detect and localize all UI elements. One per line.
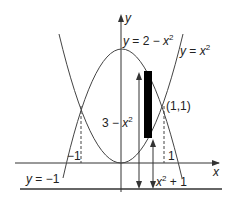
arrow-up-icon [150,139,156,147]
label-rest: = [186,44,200,58]
tick-neg-1: −1 [67,150,81,162]
label-prefix: 3 − [102,116,122,130]
lower-curve-label: y = x2 [180,44,210,57]
label-exp: 2 [128,115,132,124]
y-axis-arrow-icon [118,14,124,22]
lower-length-label: x2 + 1 [156,175,187,188]
arrow-up-icon [136,72,142,80]
tick-pos-1: 1 [168,150,175,162]
label-suffix: + 1 [166,175,186,189]
y-axis-label: y [125,12,131,24]
label-exp: 2 [169,33,173,42]
intersection-label: (1,1) [166,100,191,112]
upper-curve-label: y = 2 − x2 [123,34,173,47]
representative-rectangle [144,71,152,138]
x-axis-label: x [213,166,219,178]
label-rest: = −1 [32,172,59,186]
upper-length-label: 3 − x2 [102,116,133,129]
label-exp: 2 [206,43,210,52]
label-rest: = 2 − [129,34,163,48]
line-y-minus-1-label: y = −1 [26,173,59,185]
arrow-down-icon [136,181,142,189]
